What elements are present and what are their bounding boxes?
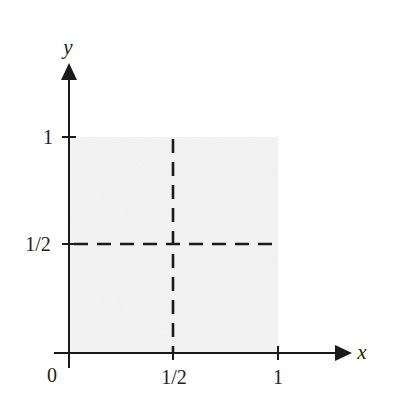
x-axis-label: x [356,340,367,364]
origin-label: 0 [47,364,57,386]
x-tick-label-1: 1 [273,366,283,388]
y-tick-label-half: 1/2 [25,233,51,255]
y-axis-label: y [61,35,73,59]
y-axis-arrow-icon [61,63,77,80]
x-axis-arrow-icon [335,345,352,361]
coordinate-diagram: y x 1 1/2 0 1/2 1 [0,0,397,415]
y-tick-label-1: 1 [43,126,53,148]
x-tick-label-half: 1/2 [161,366,187,388]
